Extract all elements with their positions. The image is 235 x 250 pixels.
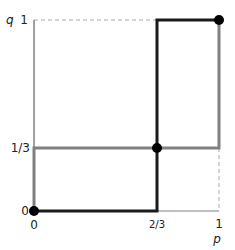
x-tick-1: 1 xyxy=(215,217,223,231)
x-tick-two-thirds: 2/3 xyxy=(149,219,165,230)
y-axis-label: q xyxy=(6,13,14,27)
y-tick-one-third: 1/3 xyxy=(11,141,30,155)
best-response-diagram: q 1 1/3 0 0 2/3 1 p xyxy=(0,0,235,250)
black-best-response-line xyxy=(34,20,219,211)
gray-best-response-line xyxy=(34,20,219,211)
y-tick-1: 1 xyxy=(20,13,28,27)
x-axis-label: p xyxy=(212,232,221,246)
origin-point xyxy=(29,206,39,216)
mixed-equilibrium-point xyxy=(152,143,162,153)
x-tick-0: 0 xyxy=(30,218,38,232)
top-right-point xyxy=(214,15,224,25)
y-tick-0: 0 xyxy=(21,204,29,218)
